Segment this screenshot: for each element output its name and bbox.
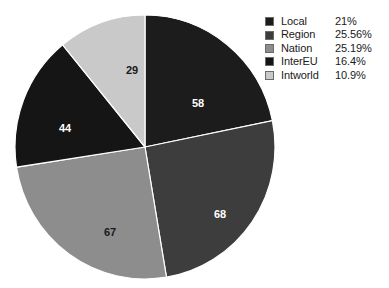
legend-swatch-icon — [265, 71, 274, 80]
legend-percent: 25.19% — [335, 42, 372, 55]
legend-item-interEU[interactable]: InterEU 16.4% — [265, 55, 385, 68]
legend-item-nation[interactable]: Nation 25.19% — [265, 42, 385, 55]
pie-chart-figure: 58 68 67 44 29 Local 21% Region 25.56% N… — [0, 0, 389, 288]
legend-swatch-icon — [265, 31, 274, 40]
legend-swatch-icon — [265, 44, 274, 53]
pie-slice-value-intworld: 29 — [126, 64, 138, 76]
legend-label: InterEU — [281, 55, 335, 68]
pie-slice-value-interEU: 44 — [59, 122, 72, 134]
legend-percent: 21% — [335, 15, 357, 28]
legend-item-local[interactable]: Local 21% — [265, 15, 385, 28]
pie-slice-nation[interactable] — [17, 147, 167, 279]
pie-slice-region[interactable] — [145, 121, 275, 278]
legend-item-region[interactable]: Region 25.56% — [265, 28, 385, 41]
pie-slice-value-local: 58 — [192, 97, 204, 109]
legend-item-intworld[interactable]: Intworld 10.9% — [265, 69, 385, 82]
legend-label: Nation — [281, 42, 335, 55]
legend-label: Local — [281, 15, 335, 28]
pie-chart-svg: 58 68 67 44 29 — [14, 14, 276, 280]
legend-swatch-icon — [265, 17, 274, 26]
legend-label: Region — [281, 28, 335, 41]
legend-percent: 16.4% — [335, 55, 366, 68]
pie-slice-value-region: 68 — [214, 208, 226, 220]
legend-percent: 10.9% — [335, 69, 366, 82]
legend-label: Intworld — [281, 69, 335, 82]
pie-slice-value-nation: 67 — [104, 226, 116, 238]
chart-legend: Local 21% Region 25.56% Nation 25.19% In… — [265, 15, 385, 82]
legend-percent: 25.56% — [335, 28, 372, 41]
legend-swatch-icon — [265, 57, 274, 66]
pie-slices — [15, 15, 275, 279]
